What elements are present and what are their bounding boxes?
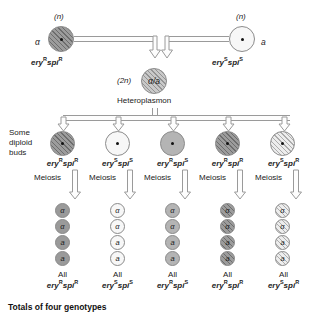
fusion-arrows <box>148 34 176 64</box>
heteroplasmon-ploidy: (2n) <box>117 76 131 85</box>
gene-spi: spi <box>228 281 240 290</box>
sup-spi: S <box>129 279 133 285</box>
diploid-buds-label-line1: Some <box>9 128 30 137</box>
spore-allele: a <box>225 238 229 247</box>
spore-allele: α <box>280 222 284 231</box>
spore-5-4: a <box>275 251 290 266</box>
nucleus-dot <box>171 142 174 145</box>
spore-allele: a <box>280 238 284 247</box>
parent-left-genotype: eryRspiR <box>31 58 63 67</box>
sup-spi: S <box>184 279 188 285</box>
figure-canvas: (n) α eryRspiR (n) a erySspiS (2n) α/a H… <box>0 0 322 318</box>
sup-spi: R <box>74 279 78 285</box>
spore-allele: α <box>60 206 64 215</box>
nucleus-dot <box>116 142 119 145</box>
spore-3-2: α <box>165 219 180 234</box>
parent-right-ploidy: (n) <box>236 12 246 21</box>
sup-spi: R <box>239 157 243 163</box>
gene-ery: ery <box>102 159 114 168</box>
spore-allele: a <box>115 238 119 247</box>
diploid-buds-label-line3: buds <box>9 148 26 157</box>
spore-allele: a <box>60 238 64 247</box>
spore-4-1: α <box>220 203 235 218</box>
diploid-bud-2 <box>105 131 130 156</box>
spore-1-3: a <box>55 235 70 250</box>
meiosis-arrow-2 <box>124 170 136 200</box>
sup-spi: S <box>129 157 133 163</box>
meiosis-label-5: Meiosis <box>255 173 282 182</box>
parent-left-ploidy: (n) <box>54 12 64 21</box>
spore-4-4: a <box>220 251 235 266</box>
spore-allele: a <box>115 254 119 263</box>
spore-3-4: a <box>165 251 180 266</box>
gene-ery: ery <box>212 159 224 168</box>
gene-spi: spi <box>173 281 185 290</box>
gene-spi: spi <box>63 281 75 290</box>
spore-4-2: α <box>220 219 235 234</box>
spore-4-3: a <box>220 235 235 250</box>
gene-spi: spi <box>284 281 296 290</box>
nucleus-dot <box>60 38 63 41</box>
connector-right-horizontal <box>168 36 229 42</box>
heteroplasmon-label: Heteroplasmon <box>117 96 171 105</box>
sup-spi: R <box>239 279 243 285</box>
gene-ery: ery <box>157 159 169 168</box>
meiosis-label-2: Meiosis <box>89 173 116 182</box>
gene-ery: ery <box>157 281 169 290</box>
bud-distribution-arrows <box>58 117 298 133</box>
parent-left-cell <box>48 26 74 52</box>
sup-spi: R <box>74 157 78 163</box>
sup-spi: R <box>59 56 63 62</box>
spore-allele: α <box>225 222 229 231</box>
meiosis-arrow-5 <box>290 170 302 200</box>
spore-2-4: a <box>110 251 125 266</box>
gene-spi: spi <box>228 58 240 67</box>
spore-5-2: α <box>275 219 290 234</box>
spore-allele: α <box>170 222 174 231</box>
gene-ery: ery <box>212 58 224 67</box>
diploid-bud-1 <box>50 131 75 156</box>
spore-1-4: a <box>55 251 70 266</box>
spore-allele: a <box>225 254 229 263</box>
spore-allele: a <box>280 254 284 263</box>
gene-spi: spi <box>284 159 296 168</box>
gene-ery: ery <box>47 159 59 168</box>
parent-right-mating-type: a <box>261 37 266 47</box>
nucleus-dot <box>241 38 244 41</box>
spore-5-3: a <box>275 235 290 250</box>
spore-1-1: α <box>55 203 70 218</box>
spore-5-1: α <box>275 203 290 218</box>
meiosis-arrow-1 <box>69 170 81 200</box>
meiosis-label-4: Meiosis <box>199 173 226 182</box>
spore-allele: a <box>170 254 174 263</box>
spore-allele: a <box>170 238 174 247</box>
sup-spi: R <box>295 279 299 285</box>
gene-spi: spi <box>173 159 185 168</box>
heteroplasmon-cell: α/a <box>141 68 167 94</box>
connector-left-horizontal <box>74 36 153 42</box>
diploid-bud-3 <box>160 131 185 156</box>
nucleus-dot <box>226 142 229 145</box>
spore-allele: α <box>170 206 174 215</box>
meiosis-arrow-3 <box>179 170 191 200</box>
gene-ery: ery <box>47 281 59 290</box>
nucleus-dot <box>61 142 64 145</box>
gene-spi: spi <box>63 159 75 168</box>
spore-allele: α <box>280 206 284 215</box>
diploid-buds-label-line2: diploid <box>9 138 32 147</box>
product-genotype-5: erySspiR <box>248 281 319 290</box>
meiosis-label-3: Meiosis <box>144 173 171 182</box>
gene-spi: spi <box>47 58 59 67</box>
spore-allele: α <box>60 222 64 231</box>
parent-right-genotype: erySspiS <box>212 58 243 67</box>
sup-spi: S <box>184 157 188 163</box>
bud-5-genotype: erySspiR <box>248 159 319 168</box>
gene-ery: ery <box>212 281 224 290</box>
spore-3-3: a <box>165 235 180 250</box>
spore-2-1: α <box>110 203 125 218</box>
meiosis-label-1: Meiosis <box>34 173 61 182</box>
spore-1-2: α <box>55 219 70 234</box>
gene-spi: spi <box>118 159 130 168</box>
parent-right-cell <box>229 26 255 52</box>
spore-allele: a <box>60 254 64 263</box>
